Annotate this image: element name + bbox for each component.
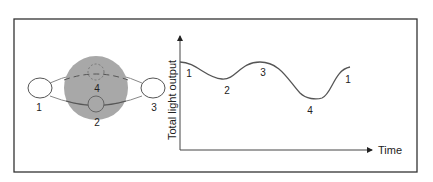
companion-position-1 (28, 78, 52, 98)
eclipsing-binary-figure: 1 2 3 4 Total light output Time 1 2 3 4 … (0, 0, 433, 182)
x-axis-label: Time (378, 144, 402, 156)
companion-position-2 (88, 96, 104, 112)
curve-label-1-end: 1 (345, 74, 351, 85)
curve-label-1-start: 1 (186, 68, 192, 79)
curve-label-4: 4 (307, 105, 313, 116)
position-label-3: 3 (151, 102, 157, 113)
position-label-2: 2 (94, 117, 100, 128)
companion-position-3 (141, 78, 165, 98)
curve-label-3: 3 (260, 67, 266, 78)
position-label-4: 4 (94, 83, 100, 94)
y-axis-label: Total light output (166, 60, 178, 140)
curve-label-2: 2 (224, 85, 230, 96)
position-label-1: 1 (36, 102, 42, 113)
